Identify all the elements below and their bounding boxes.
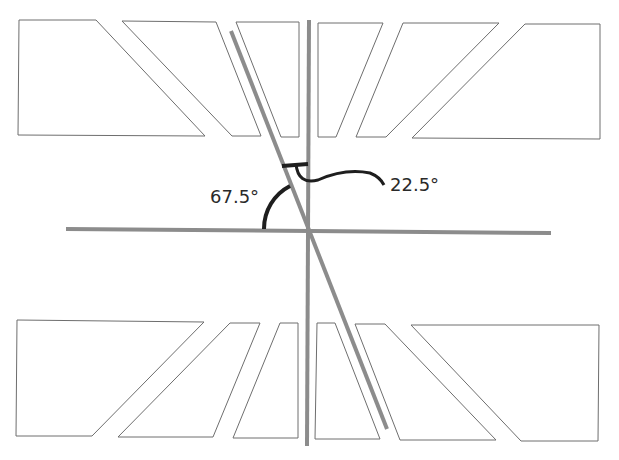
angle-label-22-5: 22.5° — [390, 176, 439, 194]
angle-diagram: 67.5° 22.5° — [0, 0, 619, 460]
diagram-canvas — [0, 0, 619, 460]
angle-label-67-5: 67.5° — [210, 188, 259, 206]
angle-arc-67-5 — [264, 186, 290, 229]
